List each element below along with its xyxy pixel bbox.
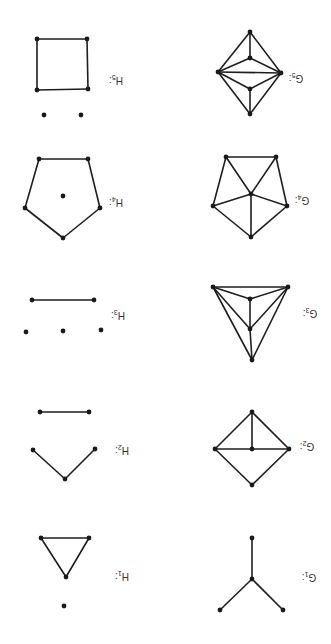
graph-vertex xyxy=(211,285,216,290)
graph-vertex xyxy=(285,204,290,209)
graph-edge xyxy=(213,206,251,237)
graph-edge xyxy=(250,58,281,73)
graph-edge xyxy=(218,32,250,72)
graph-vertex xyxy=(30,298,35,303)
graph-g4: G4: xyxy=(211,155,310,240)
graph-label: H2: xyxy=(115,444,129,456)
graph-vertex xyxy=(250,410,255,415)
graph-vertex xyxy=(61,329,66,334)
graph-edge xyxy=(218,72,250,89)
graph-edge xyxy=(251,194,287,206)
graph-vertex xyxy=(250,447,255,452)
graph-vertex xyxy=(250,358,255,363)
graph-vertex xyxy=(248,112,253,117)
graph-h1: H1: xyxy=(39,536,129,609)
graph-vertex xyxy=(61,194,66,199)
graph-vertex xyxy=(213,447,218,452)
graph-vertex xyxy=(61,236,66,241)
graph-vertex xyxy=(23,206,28,211)
graph-vertex xyxy=(39,536,44,541)
graph-vertex xyxy=(79,113,84,118)
graph-edge xyxy=(252,287,288,360)
graph-vertex xyxy=(279,71,284,76)
graph-vertex xyxy=(248,30,253,35)
graph-vertex xyxy=(37,157,42,162)
graph-vertex xyxy=(248,327,253,332)
graph-label: H1: xyxy=(115,570,129,582)
graph-vertex xyxy=(249,235,254,240)
graph-edge xyxy=(252,412,289,449)
graph-edge xyxy=(226,157,251,194)
graph-edge xyxy=(250,73,281,114)
graph-edge xyxy=(33,450,65,479)
graph-edge xyxy=(251,206,287,237)
graph-vertex xyxy=(274,155,279,160)
graph-edge xyxy=(37,89,88,90)
graph-vertex xyxy=(99,328,104,333)
graph-label: G5: xyxy=(289,72,303,84)
graph-vertex xyxy=(250,536,255,541)
graph-edge xyxy=(41,538,66,577)
graph-vertex xyxy=(93,447,98,452)
graph-label: G3: xyxy=(303,307,317,319)
graph-vertex xyxy=(286,285,291,290)
graph-edge xyxy=(276,157,287,206)
graph-edge xyxy=(63,208,100,238)
graph-label: G4: xyxy=(295,194,309,206)
graph-vertex xyxy=(85,37,90,42)
graph-edge xyxy=(220,579,252,610)
graph-vertex xyxy=(86,87,91,92)
graphs-group: G1:G2:G3:G4:G5:H1:H2:H3:H4:H5: xyxy=(23,30,318,613)
graph-h5: H5: xyxy=(35,37,123,118)
graph-edge xyxy=(252,449,289,485)
graph-label: H4: xyxy=(109,196,123,208)
graph-g5: G5: xyxy=(216,30,304,117)
graph-edge xyxy=(215,412,252,449)
graph-label: H5: xyxy=(109,74,123,86)
graph-edge xyxy=(251,157,276,194)
graph-h4: H4: xyxy=(23,157,123,241)
graph-edge xyxy=(218,72,250,114)
graph-edge xyxy=(252,579,283,610)
graph-edge xyxy=(65,449,95,479)
graph-vertex xyxy=(248,56,253,61)
graph-edge xyxy=(25,159,39,208)
graph-vertex xyxy=(35,88,40,93)
graph-figure: G1:G2:G3:G4:G5:H1:H2:H3:H4:H5: xyxy=(0,0,331,644)
graph-vertex xyxy=(87,410,92,415)
graph-g3: G3: xyxy=(211,285,318,363)
graph-vertex xyxy=(248,297,253,302)
graph-vertex xyxy=(248,87,253,92)
graph-edge xyxy=(25,208,63,238)
graph-edge xyxy=(88,159,100,208)
graph-edge xyxy=(250,73,281,89)
graph-edge xyxy=(213,194,251,206)
graph-vertex xyxy=(250,577,255,582)
graph-edge xyxy=(66,538,89,577)
graph-edge xyxy=(87,39,88,89)
graph-label: G1: xyxy=(302,571,316,583)
graph-vertex xyxy=(281,608,286,613)
graph-edge xyxy=(218,72,281,73)
graph-h2: H2: xyxy=(31,410,129,482)
graph-vertex xyxy=(224,155,229,160)
graph-vertex xyxy=(42,113,47,118)
graph-vertex xyxy=(64,575,69,580)
graph-vertex xyxy=(62,604,67,609)
graph-vertex xyxy=(38,410,43,415)
graph-edge xyxy=(250,32,281,73)
graph-label: H3: xyxy=(111,309,125,321)
graph-vertex xyxy=(211,204,216,209)
graph-h3: H3: xyxy=(24,298,125,335)
graph-vertex xyxy=(216,70,221,75)
graph-edge xyxy=(213,157,226,206)
graph-vertex xyxy=(87,536,92,541)
graph-g2: G2: xyxy=(213,410,315,488)
graph-vertex xyxy=(249,192,254,197)
graph-vertex xyxy=(31,448,36,453)
graph-vertex xyxy=(24,330,29,335)
graph-vertex xyxy=(35,37,40,42)
graph-diagram-canvas: G1:G2:G3:G4:G5:H1:H2:H3:H4:H5: xyxy=(0,0,331,644)
graph-label: G2: xyxy=(300,440,314,452)
graph-vertex xyxy=(98,206,103,211)
